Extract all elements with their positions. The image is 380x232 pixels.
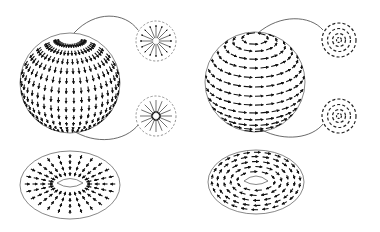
connector-arc-top-left	[74, 16, 138, 33]
torus-meridian-arrows	[25, 154, 115, 214]
sphere-outline	[20, 33, 120, 133]
inset-south-pole-vortex	[321, 98, 357, 134]
latitude-arrows	[206, 33, 305, 132]
inset-north-pole-vortex	[321, 22, 357, 58]
vector-field-diagram	[0, 0, 380, 232]
connector-arc-top-right	[258, 19, 323, 33]
torus-outline	[208, 150, 304, 214]
inset-south-pole-sink	[136, 96, 176, 136]
inset-north-pole-source	[136, 21, 176, 61]
connector-arc-bottom-right	[262, 124, 323, 137]
torus-meridional-field	[20, 151, 120, 219]
torus-longitude-arrows	[212, 152, 301, 209]
sphere-radial-field	[20, 16, 139, 139]
torus-longitudinal-field	[208, 150, 304, 214]
torus-hole	[244, 176, 268, 185]
sphere-rotational-field	[205, 19, 323, 137]
torus-hole	[57, 179, 83, 188]
